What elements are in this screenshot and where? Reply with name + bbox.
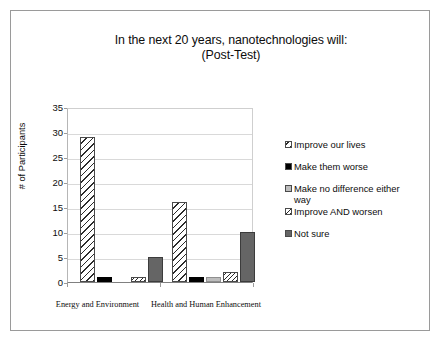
bar-g2-make-no-difference	[206, 277, 221, 282]
legend-swatch-light-gray-icon	[285, 185, 292, 192]
chart-title: In the next 20 years, nanotechnologies w…	[51, 33, 411, 63]
legend-item-make-no-difference-either-way[interactable]: Make no difference either way	[285, 183, 400, 205]
y-tick-0: 0	[41, 277, 63, 288]
y-axis-title: # of Participants	[17, 101, 27, 211]
y-tick-15: 15	[41, 202, 63, 213]
legend-label: Make them worse	[294, 161, 368, 172]
bar-g2-improve-our-lives	[172, 202, 187, 282]
y-tick-20: 20	[41, 177, 63, 188]
legend-label: Improve AND worsen	[294, 206, 383, 217]
legend-swatch-diagonal-hatch-narrow-icon	[285, 208, 292, 215]
legend-item-not-sure[interactable]: Not sure	[285, 228, 329, 239]
y-tick-10: 10	[41, 227, 63, 238]
y-tick-35: 35	[41, 102, 63, 113]
y-axis-labels: 35 30 25 20 15 10 5 0	[37, 108, 63, 283]
plot-area	[67, 108, 253, 283]
x-axis-labels: Energy and Environment Health and Human …	[51, 300, 281, 316]
gridline-30	[68, 134, 252, 135]
y-tick-5: 5	[41, 252, 63, 263]
bar-g1-improve-and-worsen	[131, 277, 146, 282]
bar-g2-not-sure	[240, 232, 255, 282]
bar-g1-make-them-worse	[97, 277, 112, 282]
legend-item-improve-and-worsen[interactable]: Improve AND worsen	[285, 206, 383, 217]
gridline-15	[68, 209, 252, 210]
legend-swatch-diagonal-hatch-wide-icon	[285, 141, 292, 148]
gridline-25	[68, 159, 252, 160]
legend-swatch-solid-black-icon	[285, 163, 292, 170]
legend-label: Make no difference either way	[294, 183, 400, 205]
gridline-10	[68, 234, 252, 235]
bar-g1-improve-our-lives	[80, 137, 95, 282]
chart-title-line1: In the next 20 years, nanotechnologies w…	[115, 33, 348, 47]
legend-label: Improve our lives	[294, 139, 365, 150]
y-tick-25: 25	[41, 152, 63, 163]
x-tick-label-health-and-human-enhancement: Health and Human Enhancement	[144, 300, 268, 309]
chart-title-line2: (Post-Test)	[51, 48, 411, 63]
legend-item-improve-our-lives[interactable]: Improve our lives	[285, 139, 365, 150]
gridline-20	[68, 184, 252, 185]
legend-item-make-them-worse[interactable]: Make them worse	[285, 161, 368, 172]
bar-g2-improve-and-worsen	[223, 272, 238, 282]
legend-label: Not sure	[294, 228, 329, 239]
slide-frame: In the next 20 years, nanotechnologies w…	[10, 10, 430, 331]
x-tick-mark	[67, 283, 68, 287]
y-tick-30: 30	[41, 127, 63, 138]
bar-g2-make-them-worse	[189, 277, 204, 282]
bar-g1-not-sure	[148, 257, 163, 282]
legend-swatch-dark-gray-icon	[285, 230, 292, 237]
x-tick-mark	[253, 283, 254, 287]
x-tick-mark	[160, 283, 161, 287]
x-tick-label-energy-and-environment: Energy and Environment	[51, 300, 144, 309]
